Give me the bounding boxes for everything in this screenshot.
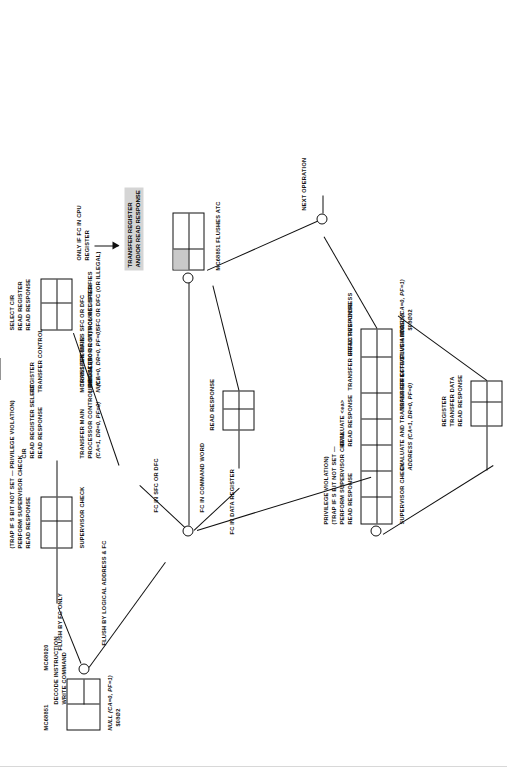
supervisor-upper-below-0: SUPERVISOR CHECK xyxy=(78,486,85,548)
data-register-lower-above-1: TRANSFER DATA xyxy=(448,376,455,426)
supervisor-upper-above-2: (TRAP IF S BIT NOT SET — PRIVILEGE VIOLA… xyxy=(8,400,15,548)
branch-fc-command-word-label: FC IN COMMAND WORD xyxy=(198,442,205,512)
flush-fc-above-4: REGISTER xyxy=(28,361,35,392)
data-register-mid-above-0: READ RESPONSE xyxy=(208,378,215,430)
device-header-mc68851: MC68851 xyxy=(42,704,49,730)
data-register-lower-node xyxy=(470,380,502,426)
command-chain-above-0: READ RESPONSE xyxy=(346,472,353,524)
flush-fc-below-0: TRANSFER MAIN xyxy=(78,408,85,458)
command-chain-node xyxy=(360,328,392,524)
sfc-dfc-below-3: MC68851 SPECIFIES xyxy=(86,271,93,330)
edge-to-supervisor-upper xyxy=(56,548,57,603)
next-operation-label: NEXT OPERATION xyxy=(300,157,307,210)
final-node-shaded-cell xyxy=(173,249,188,269)
command-chain-above-2: (TRAP IF S BIT NOT SET — xyxy=(330,446,337,524)
final-highlight-label: TRANSFER REGISTER AND/OR READ RESPONSE xyxy=(124,187,143,270)
diagram-page: MC68851 MC68020 NULL (CA=0, PF=1) $08Ø2 … xyxy=(0,0,507,770)
sfc-dfc-above-1: READ REGISTER xyxy=(16,281,23,330)
device-header-mc68020: MC68020 xyxy=(42,644,49,670)
flush-fc-above-3: TRANSFER CONTROL xyxy=(36,328,43,392)
edge-final-to-next xyxy=(206,217,325,271)
edge-data-register-mid xyxy=(238,430,239,468)
junction-start xyxy=(78,663,89,674)
start-node xyxy=(66,678,100,730)
sfc-dfc-above-2: SELECT CIR xyxy=(8,294,15,330)
sfc-dfc-below-2: (CA=0, DR=0, PF=0) xyxy=(94,329,101,386)
branch-flush-logical-label: FLUSH BY LOGICAL ADDRESS & FC xyxy=(100,540,107,645)
data-register-mid-node xyxy=(222,390,254,430)
branch-fc-sfc-dfc-label: FC IN SFC OR DFC xyxy=(152,458,159,512)
sfc-dfc-above-0: READ RESPONSE xyxy=(24,278,31,330)
data-register-lower-above-0: READ RESPONSE xyxy=(456,374,463,426)
edge-fc-sfc-dfc xyxy=(139,484,185,527)
start-status-code-label: $08Ø2 xyxy=(114,708,121,726)
junction-command-chain xyxy=(370,525,381,536)
edge-next-operation-stub xyxy=(322,195,323,213)
write-command-label: WRITE COMMAND xyxy=(60,651,67,704)
command-chain-below-0: SUPERVISOR CHECK xyxy=(398,462,405,524)
page-bottom-rule xyxy=(0,766,507,767)
edge-fc-command-word xyxy=(188,275,189,525)
supervisor-check-upper-node xyxy=(40,496,72,548)
edge-lower-data-register xyxy=(486,426,487,470)
edge-supervisor-to-upper-node xyxy=(56,460,57,496)
flow-diagram-canvas: MC68851 MC68020 NULL (CA=0, PF=1) $08Ø2 … xyxy=(0,0,507,770)
final-result-node xyxy=(172,212,204,270)
command-chain-above-7: READ RESPONSE xyxy=(346,302,353,354)
start-null-state-label: NULL (CA=0, PF=1) xyxy=(106,675,113,730)
supervisor-upper-above-0: READ RESPONSE xyxy=(24,496,31,548)
edge-mid-to-final xyxy=(212,285,239,390)
flush-fc-above-2: CIR xyxy=(20,448,27,458)
flush-fc-above-0: READ RESPONSE xyxy=(36,406,43,458)
command-chain-below-2: ADDRESS (CA=1, DR=0, PF=0) xyxy=(406,382,413,470)
data-register-lower-above-2: REGISTER xyxy=(440,395,447,426)
edge-lower-to-chain xyxy=(397,315,487,381)
command-chain-below-5: NULL (CA=0, PF=1) xyxy=(398,279,405,334)
command-chain-above-3: PRIVILEGE VIOLATION) xyxy=(322,456,329,524)
flush-fc-above-1: READ REGISTER SELECT xyxy=(28,383,35,458)
branch-fc-data-register-label: FC IN DATA REGISTER xyxy=(228,468,235,534)
junction-final xyxy=(182,272,193,283)
command-chain-above-4: READ RESPONSE xyxy=(346,394,353,446)
supervisor-upper-above-1: PERFORM SUPERVISOR CHECK xyxy=(16,454,23,548)
command-chain-above-5: EVALUATE <ea> xyxy=(338,399,345,446)
flushes-atc-label: MC68851 FLUSHES ATC xyxy=(214,201,221,270)
final-note-label: ONLY IF FC IN CPU REGISTER xyxy=(74,205,90,260)
sfc-dfc-below-4: SFC OR DFC (OR ILLEGAL) xyxy=(94,251,101,330)
junction-next-operation xyxy=(316,213,327,224)
sfc-dfc-upper-node xyxy=(40,278,72,330)
